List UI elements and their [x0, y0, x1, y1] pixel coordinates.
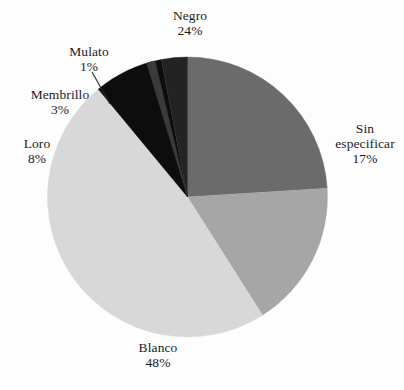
pie-label-mulato-name: Mulato	[48, 44, 130, 59]
pie-slice-negro[interactable]	[188, 57, 328, 197]
pie-label-negro-value: 24%	[140, 23, 240, 38]
pie-label-sin-especificar-name1: Sin	[326, 121, 404, 136]
pie-label-blanco: Blanco 48%	[108, 340, 208, 370]
pie-label-sin-especificar: Sin especificar 17%	[326, 121, 404, 166]
pie-chart: Negro 24% Sin especificar 17% Mulato 1% …	[0, 0, 404, 390]
pie-label-loro: Loro 8%	[4, 136, 70, 166]
pie-label-sin-especificar-value: 17%	[326, 151, 404, 166]
pie-label-blanco-value: 48%	[108, 355, 208, 370]
pie-label-mulato: Mulato 1%	[48, 44, 130, 74]
pie-label-mulato-value: 1%	[48, 59, 130, 74]
pie-label-sin-especificar-name2: especificar	[326, 136, 404, 151]
pie-label-membrillo-value: 3%	[10, 102, 110, 117]
pie-label-loro-name: Loro	[4, 136, 70, 151]
pie-label-negro-name: Negro	[140, 8, 240, 23]
pie-label-blanco-name: Blanco	[108, 340, 208, 355]
pie-label-membrillo: Membrillo 3%	[10, 87, 110, 117]
pie-label-negro: Negro 24%	[140, 8, 240, 38]
pie-label-loro-value: 8%	[4, 151, 70, 166]
pie-label-membrillo-name: Membrillo	[10, 87, 110, 102]
